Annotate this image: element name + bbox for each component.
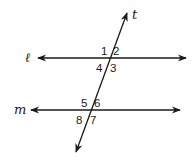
transversal-t-stroke xyxy=(76,13,127,152)
angle-5-label: 5 xyxy=(81,97,87,109)
angle-2-label: 2 xyxy=(113,45,119,57)
angles-at-line-m: 5 6 8 7 xyxy=(76,97,100,126)
transversal-t: t xyxy=(76,7,138,152)
parallel-lines-transversal-diagram: ℓ m t 1 2 4 3 5 6 8 7 xyxy=(0,0,196,160)
transversal-t-label: t xyxy=(132,7,138,22)
angle-1-label: 1 xyxy=(101,45,107,57)
angles-at-line-l: 1 2 4 3 xyxy=(96,45,119,74)
angle-8-label: 8 xyxy=(76,114,82,126)
line-l-label: ℓ xyxy=(25,50,31,65)
angle-3-label: 3 xyxy=(110,62,116,74)
line-m-label: m xyxy=(14,102,26,117)
angle-6-label: 6 xyxy=(94,97,100,109)
angle-7-label: 7 xyxy=(90,114,96,126)
angle-4-label: 4 xyxy=(96,62,103,74)
